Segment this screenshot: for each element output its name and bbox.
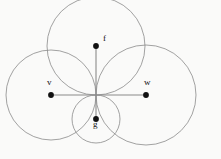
point-label-v: v <box>47 78 52 87</box>
radii-group <box>51 46 146 119</box>
point-f-dot <box>93 43 99 49</box>
figure-container: f v w g <box>0 0 221 159</box>
circles-group <box>6 0 196 145</box>
point-label-f: f <box>103 34 106 43</box>
point-label-w: w <box>144 78 151 87</box>
point-w-dot <box>143 92 149 98</box>
geometry-figure <box>0 0 221 159</box>
point-v-dot <box>48 92 54 98</box>
point-label-g: g <box>93 120 98 129</box>
